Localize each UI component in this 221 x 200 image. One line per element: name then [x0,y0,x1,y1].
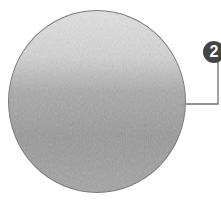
callout-number-badge: 2 [203,41,221,63]
callout-leader-line [0,0,221,200]
callout-number: 2 [210,43,219,60]
